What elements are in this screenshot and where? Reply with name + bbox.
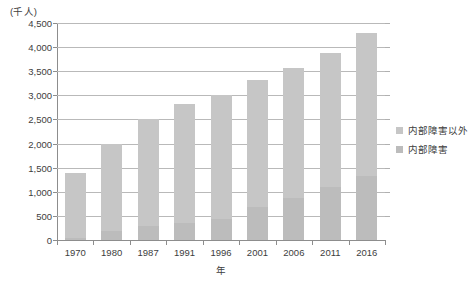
legend-swatch-icon — [396, 146, 403, 153]
bar-segment-internal — [138, 226, 159, 240]
x-axis-tick-mark — [93, 241, 94, 245]
x-axis-tick-mark — [130, 241, 131, 245]
bar-segment-other — [283, 68, 304, 198]
bar-segment-other — [101, 144, 122, 231]
x-axis-tick-label: 2016 — [345, 247, 389, 258]
bar-segment-internal — [211, 219, 232, 240]
x-axis-tick-mark — [239, 241, 240, 245]
y-axis-tick-mark — [53, 47, 57, 48]
x-axis-tick-mark — [349, 241, 350, 245]
y-axis-tick-mark — [53, 23, 57, 24]
y-axis-tick-label: 3,500 — [4, 66, 52, 77]
y-axis-tick-mark-right — [385, 119, 390, 120]
plot-area — [57, 23, 385, 240]
legend-item: 内部障害以外 — [396, 126, 472, 136]
bar-chart-figure: (千人) 05001,0001,5002,0002,5003,0003,5004… — [0, 0, 472, 281]
legend-item-label: 内部障害 — [408, 145, 448, 155]
bar-group — [65, 23, 86, 240]
legend-swatch-icon — [396, 127, 403, 134]
y-axis-tick-labels: 05001,0001,5002,0002,5003,0003,5004,0004… — [0, 0, 52, 281]
x-axis-tick-mark — [57, 241, 58, 245]
bar-segment-internal — [174, 223, 195, 240]
y-axis-tick-mark-right — [385, 216, 390, 217]
bar-group — [101, 23, 122, 240]
x-axis-tick-mark — [166, 241, 167, 245]
y-axis-tick-label: 2,000 — [4, 138, 52, 149]
bar-group — [211, 23, 232, 240]
y-axis-tick-mark-right — [385, 144, 390, 145]
y-axis-tick-mark — [53, 192, 57, 193]
bar-segment-other — [138, 119, 159, 226]
y-axis-tick-label: 3,000 — [4, 90, 52, 101]
y-axis-tick-mark-right — [385, 192, 390, 193]
bar-group — [356, 23, 377, 240]
bar-segment-other — [356, 33, 377, 177]
x-axis-tick-mark — [203, 241, 204, 245]
x-axis-tick-mark — [385, 241, 386, 245]
y-axis-tick-label: 500 — [4, 210, 52, 221]
y-axis-tick-mark-right — [385, 47, 390, 48]
x-axis-tick-mark — [276, 241, 277, 245]
y-axis-tick-label: 4,500 — [4, 18, 52, 29]
bar-segment-internal — [283, 198, 304, 240]
x-axis-title: 年 — [0, 263, 442, 277]
x-axis-line — [57, 240, 386, 241]
bar-segment-other — [65, 173, 86, 238]
bar-segment-other — [320, 53, 341, 187]
bar-segment-other — [174, 104, 195, 223]
bar-segment-other — [247, 80, 268, 207]
y-axis-tick-mark — [53, 168, 57, 169]
bar-segment-other — [211, 95, 232, 219]
y-axis-tick-label: 0 — [4, 235, 52, 246]
y-axis-tick-mark — [53, 144, 57, 145]
x-axis-tick-mark — [312, 241, 313, 245]
y-axis-tick-mark-right — [385, 71, 390, 72]
bar-group — [247, 23, 268, 240]
y-axis-tick-mark — [53, 216, 57, 217]
bar-segment-internal — [320, 187, 341, 240]
y-axis-tick-mark — [53, 95, 57, 96]
y-axis-tick-mark-right — [385, 95, 390, 96]
bar-segment-internal — [101, 231, 122, 240]
bar-group — [283, 23, 304, 240]
y-axis-tick-label: 4,000 — [4, 42, 52, 53]
chart-legend: 内部障害以外内部障害 — [396, 126, 472, 163]
y-axis-tick-mark-right — [385, 23, 390, 24]
bar-segment-internal — [247, 207, 268, 240]
y-axis-tick-mark — [53, 71, 57, 72]
legend-item-label: 内部障害以外 — [408, 126, 468, 136]
bar-group — [320, 23, 341, 240]
legend-item: 内部障害 — [396, 145, 472, 155]
y-axis-tick-mark — [53, 119, 57, 120]
y-axis-tick-label: 1,500 — [4, 162, 52, 173]
y-axis-tick-label: 2,500 — [4, 114, 52, 125]
y-axis-tick-label: 1,000 — [4, 186, 52, 197]
y-axis-tick-mark-right — [385, 168, 390, 169]
bar-segment-internal — [356, 176, 377, 240]
bar-group — [174, 23, 195, 240]
bar-group — [138, 23, 159, 240]
